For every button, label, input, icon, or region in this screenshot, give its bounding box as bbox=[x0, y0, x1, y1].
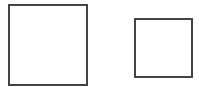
large-square bbox=[8, 4, 88, 86]
small-square bbox=[134, 18, 193, 78]
